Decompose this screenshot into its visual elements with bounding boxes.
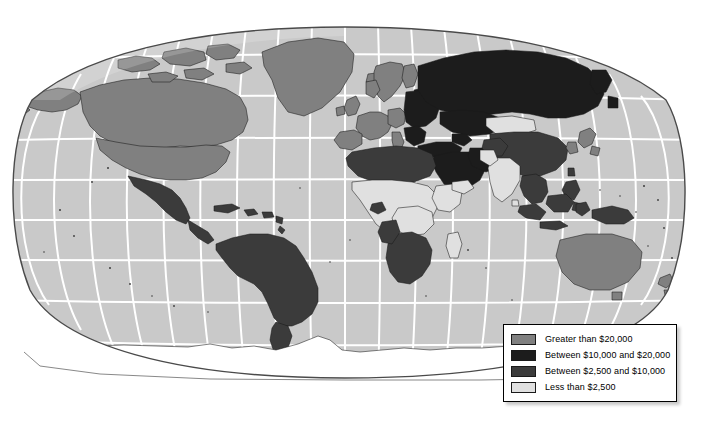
legend-item-lt-2500: Less than $2,500 [511,379,669,395]
legend-swatch-10000-20000 [511,350,536,361]
world-map-figure: Greater than $20,000 Between $10,000 and… [0,0,703,423]
legend-swatch-2500-10000 [511,366,536,377]
legend-label-lt-2500: Less than $2,500 [545,382,616,393]
legend-item-2500-10000: Between $2,500 and $10,000 [511,363,669,379]
legend-label-10000-20000: Between $10,000 and $20,000 [545,350,670,361]
legend-swatch-lt-2500 [511,382,536,393]
legend-label-2500-10000: Between $2,500 and $10,000 [545,366,665,377]
legend-swatch-gt-20000 [511,334,536,345]
legend-item-gt-20000: Greater than $20,000 [511,331,669,347]
legend-item-10000-20000: Between $10,000 and $20,000 [511,347,669,363]
legend-label-gt-20000: Greater than $20,000 [545,334,633,345]
map-legend: Greater than $20,000 Between $10,000 and… [503,324,677,402]
